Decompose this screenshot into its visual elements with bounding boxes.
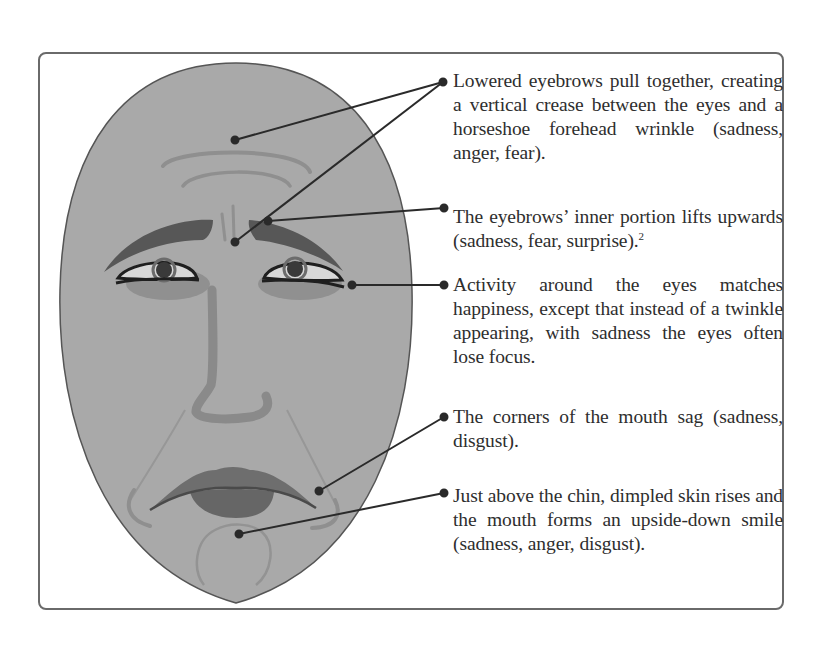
footnote-marker: 2 — [639, 230, 644, 242]
callout-text: The corners of the mouth sag (sadness, d… — [453, 406, 783, 451]
callout-chin-dimple: Just above the chin, dimpled skin rises … — [453, 484, 783, 556]
callout-text: Just above the chin, dimpled skin rises … — [453, 485, 783, 554]
callout-text: Lowered eyebrows pull together, creating… — [453, 70, 783, 163]
callout-text: The eyebrows’ inner portion lifts upward… — [453, 206, 783, 251]
callout-mouth-corners: The corners of the mouth sag (sadness, d… — [453, 405, 783, 453]
callout-lowered-eyebrows: Lowered eyebrows pull together, creating… — [453, 69, 783, 165]
callout-eye-activity: Activity around the eyes matches happine… — [453, 273, 783, 369]
callout-inner-brow-lift: The eyebrows’ inner portion lifts upward… — [453, 205, 783, 253]
callout-text: Activity around the eyes matches happine… — [453, 274, 783, 367]
